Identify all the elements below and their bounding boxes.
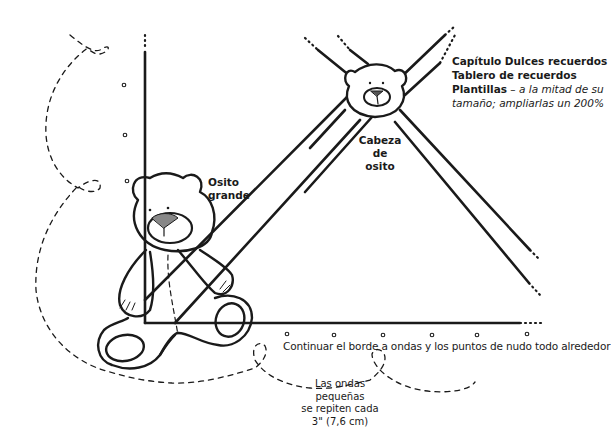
bear-head-label: Cabeza de osito [358, 134, 402, 173]
bear-head-figure [345, 64, 406, 117]
templates-line: Plantillas – a la mitad de su [452, 82, 607, 96]
board-title: Tablero de recuerdos [452, 68, 607, 82]
templates-label: Plantillas [452, 83, 507, 95]
border-instruction: Continuar el borde a ondas y los puntos … [283, 340, 610, 353]
big-bear-label: Osito grande [208, 176, 250, 202]
scalloped-border [36, 35, 475, 392]
scale-note: – a la mitad de su [507, 83, 604, 95]
wave-note-line1: Las ondas pequeñas [290, 378, 390, 403]
bear-head-label-line1: Cabeza [358, 134, 402, 147]
wave-note-line2: se repiten cada [290, 403, 390, 416]
wave-note: Las ondas pequeñas se repiten cada 3" (7… [290, 378, 390, 428]
title-block: Capítulo Dulces recuerdos Tablero de rec… [452, 54, 607, 110]
chapter-title: Capítulo Dulces recuerdos [452, 54, 607, 68]
bear-head-label-line2: de osito [358, 147, 402, 173]
big-bear-label-line1: Osito [208, 176, 250, 189]
big-bear-label-line2: grande [208, 189, 250, 202]
wave-note-line3: 3" (7,6 cm) [290, 416, 390, 429]
scale-note-cont: tamaño; ampliarlas un 200% [452, 96, 607, 110]
